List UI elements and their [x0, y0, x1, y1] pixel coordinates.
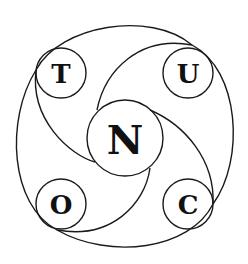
- center-letter: N: [107, 116, 144, 163]
- top-left-letter: T: [51, 59, 71, 89]
- tunoc-diagram: N T U O C: [0, 0, 248, 264]
- node-bottom-right: C: [163, 179, 213, 229]
- bottom-right-letter: C: [178, 190, 199, 220]
- node-top-right: U: [163, 48, 213, 98]
- bottom-left-letter: O: [50, 190, 73, 220]
- node-center: N: [87, 100, 163, 176]
- top-right-letter: U: [177, 59, 200, 89]
- node-top-left: T: [36, 48, 86, 98]
- node-bottom-left: O: [36, 179, 86, 229]
